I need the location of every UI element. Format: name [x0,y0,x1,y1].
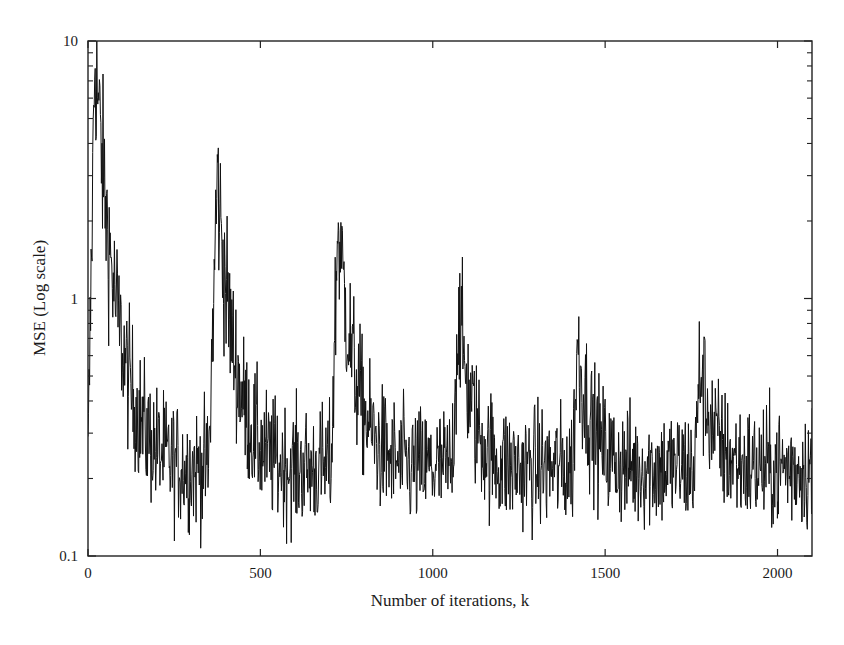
x-tick-label: 2000 [763,565,793,581]
x-tick-label: 1500 [590,565,620,581]
y-axis-title: MSE (Log scale) [30,240,49,356]
y-tick-label: 10 [63,33,78,49]
x-tick-label: 500 [249,565,272,581]
x-tick-label: 1000 [418,565,448,581]
mse-chart: 0500100015002000 0.1110 Number of iterat… [0,0,844,645]
y-tick-label: 1 [71,291,79,307]
y-tick-label: 0.1 [59,548,78,564]
x-tick-label: 0 [84,565,92,581]
mse-line [88,36,812,548]
x-axis-title: Number of iterations, k [371,591,530,610]
